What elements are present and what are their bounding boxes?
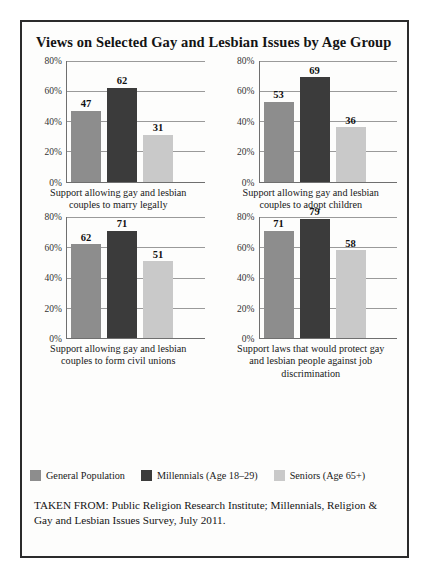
legend-swatch bbox=[141, 470, 152, 481]
bar-slot: 62 bbox=[107, 61, 137, 182]
chart-panel: 0%20%40%60%80%627151Support allowing gay… bbox=[22, 217, 215, 380]
y-axis-tick-label: 80% bbox=[237, 56, 254, 66]
bar-value-label: 31 bbox=[153, 123, 164, 134]
bar-group: 627151 bbox=[67, 217, 205, 338]
plot-area: 627151 bbox=[66, 217, 205, 339]
bar: 71 bbox=[264, 231, 294, 338]
bar: 31 bbox=[143, 135, 173, 182]
bar-slot: 69 bbox=[300, 61, 330, 182]
bar-slot: 71 bbox=[107, 217, 137, 338]
plot-area: 476231 bbox=[66, 61, 205, 183]
bar-group: 536936 bbox=[260, 61, 398, 182]
bar-value-label: 51 bbox=[153, 250, 164, 261]
bar: 69 bbox=[300, 77, 330, 181]
bar-slot: 36 bbox=[336, 61, 366, 182]
bar-value-label: 53 bbox=[273, 90, 284, 101]
plot-area: 717958 bbox=[259, 217, 398, 339]
bar: 47 bbox=[71, 111, 101, 182]
chart-panel: 0%20%40%60%80%536936Support allowing gay… bbox=[215, 61, 408, 211]
y-axis-tick-label: 80% bbox=[237, 212, 254, 222]
y-axis-tick-label: 40% bbox=[45, 273, 62, 283]
y-axis-tick-label: 20% bbox=[45, 304, 62, 314]
y-axis-tick-label: 20% bbox=[237, 304, 254, 314]
chart-caption: Support laws that would protect gay and … bbox=[219, 343, 404, 380]
legend-item: Seniors (Age 65+) bbox=[274, 470, 365, 481]
bar-group: 717958 bbox=[260, 217, 398, 338]
y-axis-tick-label: 60% bbox=[237, 243, 254, 253]
bar: 51 bbox=[143, 261, 173, 338]
legend-label: Millennials (Age 18–29) bbox=[157, 470, 258, 481]
y-axis-tick-label: 60% bbox=[45, 243, 62, 253]
legend-swatch bbox=[30, 470, 41, 481]
bar-value-label: 58 bbox=[345, 239, 356, 250]
chart-panel: 0%20%40%60%80%476231Support allowing gay… bbox=[22, 61, 215, 211]
y-axis-tick-label: 60% bbox=[237, 86, 254, 96]
bar-value-label: 71 bbox=[117, 219, 128, 230]
bar-slot: 47 bbox=[71, 61, 101, 182]
bar-value-label: 62 bbox=[117, 76, 128, 87]
y-axis-tick-label: 80% bbox=[45, 56, 62, 66]
y-axis-tick-label: 0% bbox=[242, 178, 255, 188]
y-axis: 0%20%40%60%80% bbox=[26, 217, 66, 339]
y-axis-tick-label: 20% bbox=[45, 147, 62, 157]
figure-title: Views on Selected Gay and Lesbian Issues… bbox=[22, 22, 407, 55]
bar-value-label: 62 bbox=[81, 233, 92, 244]
bar-slot: 71 bbox=[264, 217, 294, 338]
plot-area: 536936 bbox=[259, 61, 398, 183]
y-axis-tick-label: 60% bbox=[45, 86, 62, 96]
bar: 62 bbox=[71, 244, 101, 338]
bar-slot: 79 bbox=[300, 217, 330, 338]
bar-value-label: 71 bbox=[273, 219, 284, 230]
y-axis-tick-label: 0% bbox=[49, 334, 62, 344]
y-axis: 0%20%40%60%80% bbox=[26, 61, 66, 183]
bar: 36 bbox=[336, 127, 366, 181]
chart-panel: 0%20%40%60%80%717958Support laws that wo… bbox=[215, 217, 408, 380]
y-axis: 0%20%40%60%80% bbox=[219, 61, 259, 183]
y-axis-tick-label: 80% bbox=[45, 212, 62, 222]
source-note: TAKEN FROM: Public Religion Research Ins… bbox=[22, 498, 407, 528]
small-multiples-grid: 0%20%40%60%80%476231Support allowing gay… bbox=[22, 61, 407, 380]
legend-swatch bbox=[274, 470, 285, 481]
y-axis-tick-label: 40% bbox=[237, 117, 254, 127]
chart-caption: Support allowing gay and lesbian couples… bbox=[26, 187, 211, 211]
bar-slot: 58 bbox=[336, 217, 366, 338]
y-axis-tick-label: 20% bbox=[237, 147, 254, 157]
bar: 53 bbox=[264, 102, 294, 182]
bar-value-label: 47 bbox=[81, 99, 92, 110]
chart-caption: Support allowing gay and lesbian couples… bbox=[26, 343, 211, 367]
bar-value-label: 36 bbox=[345, 116, 356, 127]
y-axis: 0%20%40%60%80% bbox=[219, 217, 259, 339]
chart-legend: General PopulationMillennials (Age 18–29… bbox=[22, 470, 407, 481]
bar-slot: 53 bbox=[264, 61, 294, 182]
bar: 71 bbox=[107, 231, 137, 338]
y-axis-tick-label: 40% bbox=[45, 117, 62, 127]
bar-group: 476231 bbox=[67, 61, 205, 182]
bar-value-label: 79 bbox=[309, 207, 320, 218]
bar-slot: 31 bbox=[143, 61, 173, 182]
legend-label: Seniors (Age 65+) bbox=[290, 470, 365, 481]
bar: 79 bbox=[300, 219, 330, 338]
bar-slot: 51 bbox=[143, 217, 173, 338]
y-axis-tick-label: 0% bbox=[49, 178, 62, 188]
y-axis-tick-label: 40% bbox=[237, 273, 254, 283]
legend-item: Millennials (Age 18–29) bbox=[141, 470, 258, 481]
legend-item: General Population bbox=[30, 470, 125, 481]
figure-panel: Views on Selected Gay and Lesbian Issues… bbox=[20, 20, 409, 558]
bar-slot: 62 bbox=[71, 217, 101, 338]
bar: 58 bbox=[336, 250, 366, 338]
bar: 62 bbox=[107, 88, 137, 182]
y-axis-tick-label: 0% bbox=[242, 334, 255, 344]
bar-value-label: 69 bbox=[309, 66, 320, 77]
legend-label: General Population bbox=[46, 470, 125, 481]
